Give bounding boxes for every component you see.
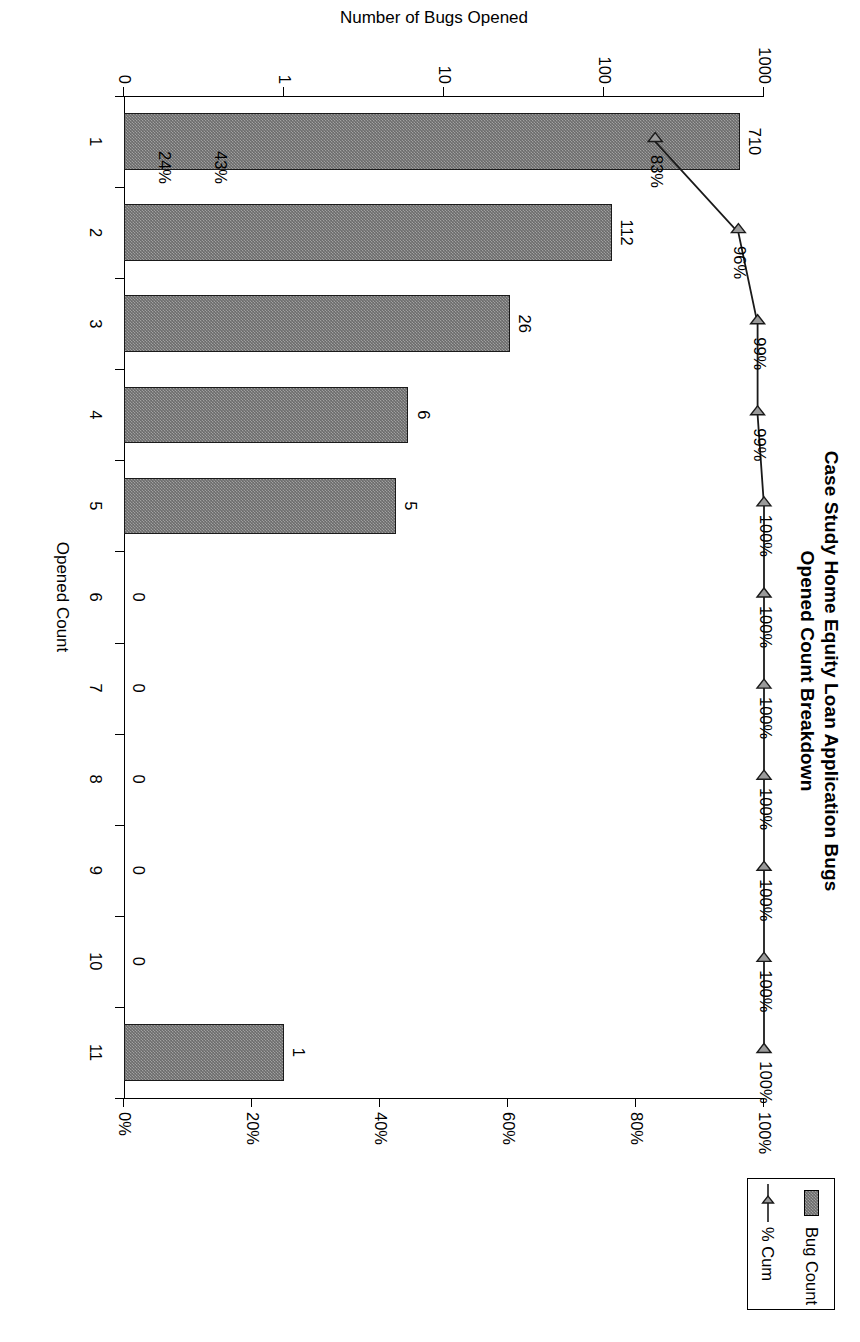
category-axis-tick	[115, 916, 124, 917]
category-axis-label: 10	[86, 931, 105, 991]
cumulative-value-label: 99%	[750, 428, 769, 461]
category-axis-tick	[115, 1007, 124, 1008]
right-axis-tick-label: 60%	[499, 1112, 518, 1174]
category-axis-label: 6	[86, 567, 105, 627]
cumulative-value-label: 100%	[756, 697, 775, 739]
category-axis-tick	[115, 460, 124, 461]
pareto-chart-figure: Case Study Home Equity Loan Application …	[0, 0, 860, 1342]
category-axis-label: 8	[86, 749, 105, 809]
right-axis-tick-label: 80%	[627, 1112, 646, 1174]
plot-area: 10001001010 0%20%40%60%80%100% 123456789…	[124, 96, 764, 1098]
left-axis-tick-label: 0	[115, 14, 134, 84]
cumulative-marker	[751, 406, 765, 415]
cumulative-value-label: 100%	[756, 970, 775, 1012]
legend-label-percent-cum: % Cum	[759, 1227, 778, 1281]
right-axis-line	[124, 1098, 764, 1099]
category-axis-tick	[115, 1098, 124, 1099]
category-axis-label: 11	[86, 1022, 105, 1082]
cumulative-value-label: 83%	[647, 155, 666, 188]
category-axis-label: 3	[86, 294, 105, 354]
category-axis-tick	[115, 187, 124, 188]
cumulative-marker	[757, 497, 771, 506]
right-axis-tick	[379, 1098, 380, 1107]
right-axis-tick-label: 100%	[755, 1112, 774, 1174]
right-axis-tick-label: 20%	[243, 1112, 262, 1174]
legend-bar-swatch-icon	[805, 1179, 820, 1227]
chart-title: Case Study Home Equity Loan Application …	[819, 0, 844, 1342]
legend-line-marker-icon	[759, 1179, 777, 1227]
cumulative-value-label: 99%	[750, 337, 769, 370]
cumulative-marker	[757, 952, 771, 961]
category-axis-tick	[115, 278, 124, 279]
left-axis-tick	[283, 87, 284, 96]
cumulative-value-label: 100%	[756, 879, 775, 921]
cumulative-value-label: 100%	[756, 515, 775, 557]
category-axis-title: Opened Count	[52, 96, 72, 1098]
cumulative-marker	[757, 679, 771, 688]
left-axis-tick	[123, 87, 124, 96]
annotation-label: 43%	[211, 151, 230, 184]
right-axis-tick	[507, 1098, 508, 1107]
left-axis-tick	[443, 87, 444, 96]
cumulative-value-label: 96%	[730, 246, 749, 279]
category-axis-label: 9	[86, 840, 105, 900]
right-axis-tick-label: 0%	[115, 1112, 134, 1174]
right-axis-tick	[251, 1098, 252, 1107]
category-axis-tick	[115, 551, 124, 552]
category-axis-tick	[115, 369, 124, 370]
category-axis-label: 2	[86, 203, 105, 263]
category-axis-label: 5	[86, 476, 105, 536]
cumulative-marker	[757, 861, 771, 870]
cumulative-marker	[757, 588, 771, 597]
category-axis-tick	[115, 734, 124, 735]
cumulative-value-label: 100%	[756, 788, 775, 830]
left-axis-title: Number of Bugs Opened	[274, 8, 594, 28]
category-axis-tick	[115, 825, 124, 826]
category-axis-tick	[115, 96, 124, 97]
category-axis-label: 4	[86, 385, 105, 445]
category-axis-label: 7	[86, 658, 105, 718]
legend-item-percent-cum: % Cum	[746, 1179, 790, 1309]
right-axis-tick	[123, 1098, 124, 1107]
cumulative-marker	[757, 770, 771, 779]
cumulative-value-label: 100%	[756, 1061, 775, 1103]
chart-legend: Bug Count % Cum	[747, 1178, 835, 1310]
right-axis-tick	[635, 1098, 636, 1107]
left-axis-tick-label: 1000	[755, 14, 774, 84]
legend-item-bug-count: Bug Count	[790, 1179, 834, 1309]
category-axis-tick	[115, 643, 124, 644]
cumulative-marker	[751, 315, 765, 324]
left-axis-tick	[603, 87, 604, 96]
cumulative-line-svg	[124, 96, 764, 1098]
category-axis-label: 1	[86, 112, 105, 172]
annotation-label: 24%	[155, 151, 174, 184]
cumulative-marker	[648, 133, 662, 142]
cumulative-marker	[757, 1043, 771, 1052]
chart-subtitle: Opened Count Breakdown	[795, 0, 820, 1342]
cumulative-value-label: 100%	[756, 606, 775, 648]
right-axis-tick-label: 40%	[371, 1112, 390, 1174]
left-axis-tick-label: 100	[595, 14, 614, 84]
left-axis-tick	[763, 87, 764, 96]
legend-label-bug-count: Bug Count	[803, 1227, 822, 1305]
